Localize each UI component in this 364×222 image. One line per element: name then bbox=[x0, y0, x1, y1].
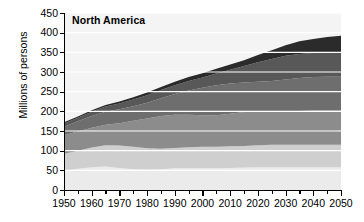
page-title: North America bbox=[72, 14, 145, 26]
chart-figure: Millions of persons 05010015020025030035… bbox=[0, 0, 364, 222]
x-axis-tick-labels: 1950196019701980199020002010202020302040… bbox=[0, 0, 364, 222]
x-tick-label: 2050 bbox=[321, 198, 361, 209]
